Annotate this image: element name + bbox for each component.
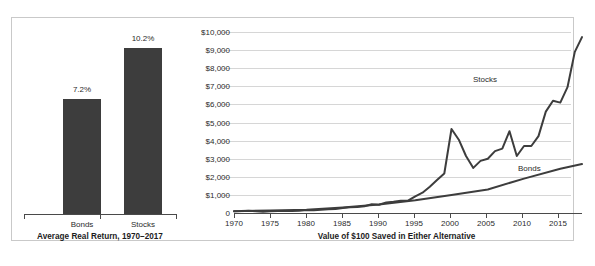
xtick-label-1975: 1975: [261, 219, 279, 228]
xtick-label-1970: 1970: [225, 219, 243, 228]
bar-chart-panel: 7.2% 10.2% Bonds Stocks Average Real Ret…: [12, 18, 188, 240]
figure-frame: 7.2% 10.2% Bonds Stocks Average Real Ret…: [11, 17, 574, 241]
line-series-canvas: [188, 18, 575, 218]
bar-axis-tick-mid: [100, 214, 101, 219]
xtick-label-2005: 2005: [477, 219, 495, 228]
xtick-label-2015: 2015: [549, 219, 567, 228]
bar-axis-tick-left: [24, 214, 25, 219]
bar-stocks: [124, 48, 162, 214]
line-chart-caption: Value of $100 Saved in Either Alternativ…: [218, 232, 575, 241]
bar-value-label-bonds: 7.2%: [62, 85, 102, 94]
bar-chart-caption: Average Real Return, 1970–2017: [12, 232, 188, 241]
xtick-label-1995: 1995: [405, 219, 423, 228]
series-annotation-bonds: Bonds: [518, 164, 541, 173]
bar-bonds: [63, 99, 101, 214]
xtick-label-1990: 1990: [369, 219, 387, 228]
bar-plot-area: 7.2% 10.2% Bonds Stocks: [12, 18, 188, 240]
xtick-label-1985: 1985: [333, 219, 351, 228]
xtick-label-2010: 2010: [513, 219, 531, 228]
series-line-stocks: [234, 37, 582, 212]
xtick-label-1980: 1980: [297, 219, 315, 228]
bar-axis-tick-right: [176, 214, 177, 219]
bar-category-label-stocks: Stocks: [123, 220, 163, 229]
xtick-label-2000: 2000: [441, 219, 459, 228]
bar-value-label-stocks: 10.2%: [123, 34, 163, 43]
series-annotation-stocks: Stocks: [473, 75, 497, 84]
line-chart-panel: $10,000 $9,000 $8,000 $7,000 $6,000 $5,0…: [188, 18, 575, 240]
bar-category-label-bonds: Bonds: [62, 220, 102, 229]
